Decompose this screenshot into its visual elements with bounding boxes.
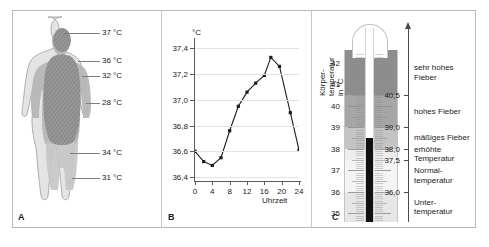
body-label-3: 32 °C: [102, 71, 122, 80]
chart-y-tick: [190, 177, 194, 178]
thermometer-scale-tick: [356, 140, 364, 141]
thermometer-scale-tick: [348, 149, 364, 150]
thermometer-scale-tick: [356, 136, 364, 137]
thermometer-scale-tick: [375, 87, 383, 88]
thermometer-scale-tick: [375, 168, 383, 169]
thermometer-scale-tick: [375, 216, 383, 217]
thermometer-scale-tick: [375, 138, 387, 139]
chart-y-tick: [190, 151, 194, 152]
thermometer-scale-tick: [356, 123, 364, 124]
thermometer-scale-tick: [356, 80, 364, 81]
fever-category-label: mäßiges Fieber: [414, 133, 470, 143]
chart-x-tick-label: 4: [205, 187, 219, 196]
thermometer-scale-tick: [375, 106, 391, 107]
thermometer-scale-tick: [375, 76, 383, 77]
chart-x-tick: [212, 181, 213, 185]
thermometer-scale-tick: [375, 57, 383, 58]
thermometer-scale-tick: [356, 78, 364, 79]
thermometer-scale-tick: [375, 177, 383, 178]
thermometer-scale-tick: [356, 216, 364, 217]
thermometer-scale-tick: [348, 84, 364, 85]
thermometer-scale-tick: [348, 63, 364, 64]
thermometer-scale-tick: [356, 173, 364, 174]
panel-b-chart: °C 36,436,636,837,037,237,4 04812162024 …: [162, 10, 310, 228]
thermometer-scale-tick: [356, 177, 364, 178]
thermometer-scale-tick: [348, 127, 364, 128]
thermometer-scale-tick: [356, 132, 364, 133]
thermometer-scale-tick: [375, 115, 383, 116]
chart-data-point: [254, 82, 257, 85]
leader-line-3: [82, 76, 100, 77]
thermometer-scale-tick: [375, 84, 391, 85]
chart-data-point: [278, 65, 281, 68]
chart-y-tick-label: 37,4: [164, 44, 188, 53]
thermometer-scale-tick: [356, 115, 364, 116]
chart-y-tick-label: 36,8: [164, 122, 188, 131]
thermometer-scale-tick: [375, 104, 383, 105]
thermometer-scale-tick: [375, 80, 383, 81]
leader-line-5: [70, 153, 100, 154]
figure-root: 37 °C 36 °C 32 °C 28 °C 34 °C 31 °C A °C…: [0, 0, 489, 247]
thermometer-scale-tick: [356, 155, 364, 156]
thermometer-scale-tick: [356, 57, 364, 58]
thermometer-scale-tick: [375, 209, 383, 210]
thermometer-scale-tick: [356, 121, 364, 122]
thermometer-scale-tick: [356, 218, 364, 219]
fever-scale-boundary-label: 37,5: [378, 156, 400, 165]
fever-scale-tick: [404, 127, 409, 128]
thermometer-scale-tick: [356, 151, 364, 152]
fever-category-label: sehr hohesFieber: [414, 63, 454, 82]
thermometer-scale-tick: [356, 145, 364, 146]
chart-y-tick-label: 36,6: [164, 147, 188, 156]
chart-gridline: [195, 151, 299, 152]
panel-a-body-zones: 37 °C 36 °C 32 °C 28 °C 34 °C 31 °C A: [12, 10, 160, 228]
thermometer-scale-number: 38: [326, 145, 340, 154]
fever-scale-arrow-icon: [405, 22, 411, 29]
body-label-5: 34 °C: [102, 148, 122, 157]
fever-category-label: Unter-temperatur: [414, 198, 453, 217]
chart-gridline: [195, 177, 299, 178]
thermometer-scale-tick: [352, 160, 364, 161]
chart-x-tick-label: 24: [292, 187, 306, 196]
chart-x-tick-label: 8: [223, 187, 237, 196]
thermometer-scale-tick: [356, 147, 364, 148]
thermometer-scale-tick: [356, 207, 364, 208]
thermometer-scale-tick: [375, 121, 383, 122]
chart-y-unit: °C: [192, 28, 201, 37]
thermometer-scale-tick: [352, 138, 364, 139]
panel-letter-c: C: [332, 212, 339, 222]
thermometer-scale-tick: [375, 198, 383, 199]
thermometer-scale-tick: [356, 168, 364, 169]
leader-line-2: [78, 61, 100, 62]
thermometer-scale-tick: [375, 112, 383, 113]
panel-c-thermometer: Körper-temperaturin °C 4241403938373635 …: [312, 10, 476, 228]
chart-data-point: [269, 56, 272, 59]
thermometer-scale-tick: [375, 65, 383, 66]
thermometer-scale-tick: [356, 104, 364, 105]
thermometer-scale-tick: [375, 203, 387, 204]
thermometer-scale-tick: [356, 143, 364, 144]
chart-x-title: Uhrzeit: [262, 196, 287, 205]
thermometer-scale-tick: [356, 97, 364, 98]
chart-gridline: [195, 100, 299, 101]
thermometer-scale-tick: [375, 181, 387, 182]
chart-x-tick: [299, 181, 300, 185]
fever-scale-tick: [404, 192, 409, 193]
thermometer-scale-tick: [352, 203, 364, 204]
thermometer-scale-number: 42: [326, 59, 340, 68]
thermometer-scale-tick: [375, 82, 383, 83]
thermometer-scale-tick: [356, 211, 364, 212]
chart-y-tick: [190, 100, 194, 101]
thermometer-scale-tick: [375, 207, 383, 208]
thermometer-scale-tick: [356, 175, 364, 176]
thermometer-scale-tick: [375, 63, 391, 64]
chart-x-tick: [282, 181, 283, 185]
thermometer-scale-tick: [356, 102, 364, 103]
thermometer-scale-tick: [375, 67, 383, 68]
chart-gridline: [195, 74, 299, 75]
thermometer-scale-tick: [356, 183, 364, 184]
thermometer-scale-tick: [356, 110, 364, 111]
chart-data-point: [219, 156, 222, 159]
body-label-6: 31 °C: [102, 173, 122, 182]
thermometer-scale-tick: [375, 220, 383, 221]
